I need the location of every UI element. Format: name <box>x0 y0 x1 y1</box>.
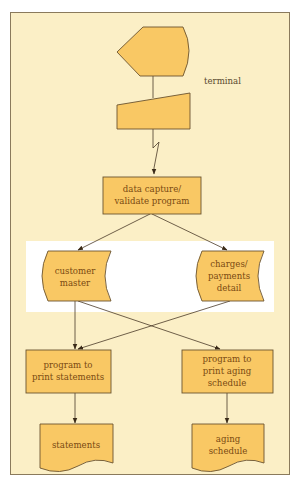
svg-text:program to: program to <box>43 360 92 370</box>
svg-text:data capture/: data capture/ <box>123 184 182 194</box>
svg-text:customer: customer <box>55 266 97 276</box>
node-customer-master: customer master <box>42 251 111 301</box>
svg-text:charges/: charges/ <box>210 259 248 269</box>
svg-text:statements: statements <box>52 440 100 450</box>
svg-text:program to: program to <box>202 354 251 364</box>
svg-text:print aging: print aging <box>203 366 252 376</box>
svg-text:schedule: schedule <box>208 378 247 388</box>
node-print-statements: program to print statements <box>26 350 111 393</box>
svg-text:schedule: schedule <box>209 446 248 456</box>
node-charges-payments: charges/ payments detail <box>196 251 264 301</box>
terminal-note: terminal <box>204 76 241 86</box>
svg-text:validate program: validate program <box>113 196 189 206</box>
svg-text:aging: aging <box>216 434 241 444</box>
svg-text:master: master <box>60 278 91 288</box>
flowchart: terminal data capture/ validate program … <box>0 0 296 497</box>
svg-text:print statements: print statements <box>32 372 104 382</box>
node-print-aging: program to print aging schedule <box>182 350 273 393</box>
svg-text:detail: detail <box>217 283 242 293</box>
svg-text:payments: payments <box>208 271 250 281</box>
node-data-capture: data capture/ validate program <box>103 177 201 214</box>
